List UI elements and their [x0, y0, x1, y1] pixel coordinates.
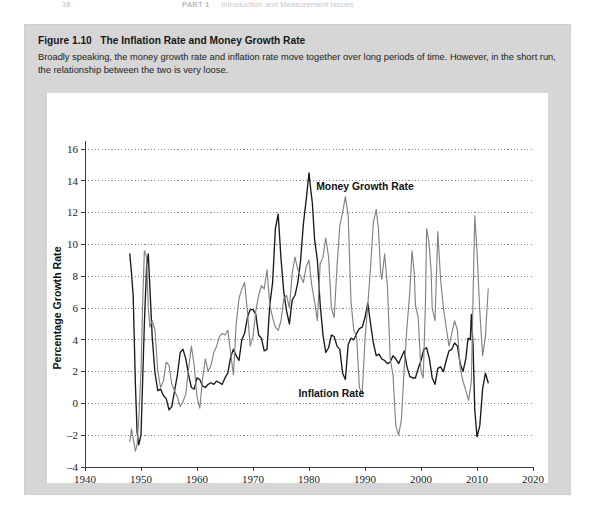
chart-annotation: Inflation Rate: [298, 388, 364, 399]
figure-card: Figure 1.10 The Inflation Rate and Money…: [24, 24, 571, 495]
chart-canvas: –4–2024681012141619401950196019701980199…: [47, 93, 548, 483]
figure-description: Broadly speaking, the money growth rate …: [38, 51, 557, 77]
plot-panel: –4–2024681012141619401950196019701980199…: [47, 93, 548, 483]
y-tick-label: 2: [73, 365, 79, 377]
part-label: PART 1: [182, 0, 209, 9]
x-tick-label: 1960: [186, 473, 209, 483]
y-tick-label: 10: [67, 238, 79, 250]
y-axis-title: Percentage Growth Rate: [51, 246, 63, 369]
series-line-inflation-rate: [130, 173, 488, 445]
x-tick-label: 1970: [242, 473, 265, 483]
figure-heading: Figure 1.10 The Inflation Rate and Money…: [38, 34, 557, 48]
y-tick-label: 4: [73, 334, 79, 346]
x-tick-label: 1990: [354, 473, 377, 483]
y-tick-label: 0: [73, 397, 79, 409]
annotation-layer: Money Growth RateInflation Rate: [298, 181, 414, 399]
chapter-title: Introduction and Measurement Issues: [221, 0, 354, 9]
figure-number: Figure 1.10: [38, 35, 92, 46]
x-tick-label: 2010: [466, 473, 489, 483]
x-tick-label: 1940: [74, 473, 97, 483]
y-tick-label: 6: [73, 302, 79, 314]
figure-title: The Inflation Rate and Money Growth Rate: [100, 35, 305, 46]
series-line-money-growth-rate: [130, 197, 488, 451]
x-tick-label: 2020: [522, 473, 545, 483]
y-tick-label: 14: [67, 175, 79, 187]
y-tick-label: 16: [67, 143, 79, 155]
y-tick-label: –2: [66, 429, 78, 441]
y-tick-label: –4: [66, 461, 79, 473]
y-tick-label: 8: [73, 270, 79, 282]
running-head: 16 PART 1 Introduction and Measurement I…: [0, 0, 595, 14]
x-tick-label: 2000: [410, 473, 433, 483]
series-layer: [130, 173, 488, 451]
chart-annotation: Money Growth Rate: [316, 181, 414, 192]
x-tick-label: 1980: [298, 473, 321, 483]
page-folio: 16: [62, 0, 71, 9]
y-tick-label: 12: [67, 206, 78, 218]
x-tick-label: 1950: [130, 473, 153, 483]
